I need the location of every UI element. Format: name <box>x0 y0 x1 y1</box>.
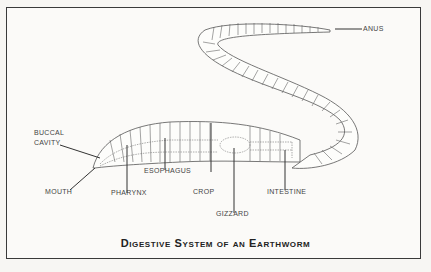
label-mouth: MOUTH <box>45 187 72 197</box>
earthworm-illustration <box>0 0 431 272</box>
label-buccal-line2: CAVITY <box>34 138 64 148</box>
label-buccal-cavity: BUCCAL CAVITY <box>34 128 64 148</box>
label-buccal-line1: BUCCAL <box>34 128 64 138</box>
label-pharynx: PHARYNX <box>111 188 147 198</box>
label-anus: ANUS <box>363 24 384 34</box>
figure-title: Digestive System of an Earthworm <box>0 237 431 249</box>
label-crop: CROP <box>193 187 214 197</box>
label-gizzard: GIZZARD <box>216 209 249 219</box>
label-intestine: INTESTINE <box>267 187 306 197</box>
label-esophagus: ESOPHAGUS <box>144 166 191 176</box>
